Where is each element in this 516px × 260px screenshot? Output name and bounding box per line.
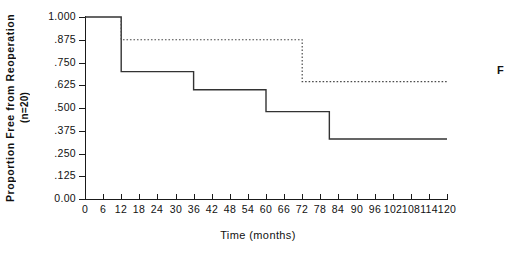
edge-annotation-label: F <box>497 64 504 76</box>
solid-curve-path <box>85 17 447 139</box>
x-axis-title: Time (months) <box>0 229 516 241</box>
plot-curves <box>0 0 516 260</box>
survival-curve-figure: Proportion Free from Reoperation (n=20) … <box>0 0 516 260</box>
